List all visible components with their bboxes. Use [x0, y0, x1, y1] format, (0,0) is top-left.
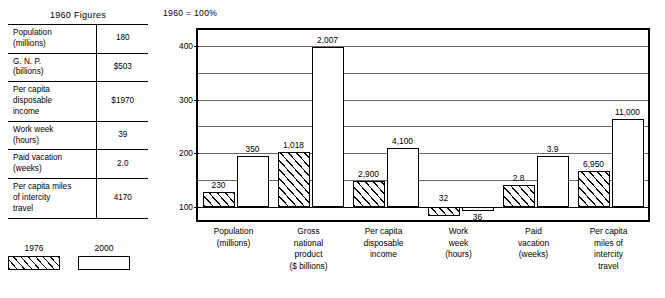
table-row-value: 180: [96, 25, 148, 54]
bar-1976: [353, 181, 385, 206]
x-axis-category-label: Population(millions): [198, 226, 269, 249]
legend-item-label: 2000: [78, 243, 130, 253]
chart-category-labels: Population(millions)Grossnationalproduct…: [196, 226, 650, 292]
bar-2000: [462, 207, 494, 211]
bar-1976: [203, 192, 235, 207]
bar-group: 3236: [423, 30, 498, 220]
table-row-label: Paid vacation(weeks): [8, 150, 96, 179]
table-row: Population(millions)180: [8, 25, 148, 54]
y-axis-tick: 400: [179, 41, 193, 51]
bar-2000: [537, 156, 569, 207]
bar-2000: [612, 119, 644, 207]
bar-2000: [387, 148, 419, 206]
legend-swatch-solid: [78, 256, 130, 270]
x-axis-category-label: Per capitadisposableincome: [348, 226, 419, 261]
bar-value-label: 1,018: [283, 140, 304, 150]
bar-group: 2,9004,100: [348, 30, 423, 220]
y-axis-tick: 100: [179, 202, 193, 212]
table-row-value: $1970: [96, 82, 148, 121]
legend-swatch-hatched: [8, 256, 60, 270]
table-row-label: Population(millions): [8, 25, 96, 54]
bar-1976: [278, 152, 310, 207]
report-figure: 1960 Figures Population(millions)180G. N…: [0, 0, 665, 298]
x-axis-category-label: Paidvacation(weeks): [498, 226, 569, 261]
chart-plot-area: 1002003004002303501,0182,0072,9004,10032…: [196, 28, 650, 222]
bar-1976: [503, 185, 535, 206]
bar-group: 6,95011,000: [573, 30, 648, 220]
table-row: Per capita milesof intercitytravel4170: [8, 179, 148, 218]
figures-table-title: 1960 Figures: [8, 10, 148, 24]
bar-1976: [578, 171, 610, 207]
figures-table-panel: 1960 Figures Population(millions)180G. N…: [8, 10, 148, 219]
table-row: G. N. P.(billions)$503: [8, 53, 148, 82]
y-axis-tick: 200: [179, 148, 193, 158]
table-row-value: 2.0: [96, 150, 148, 179]
table-row-value: $503: [96, 53, 148, 82]
legend-item: 2000: [78, 243, 130, 270]
bar-value-label: 11,000: [615, 107, 640, 117]
bar-value-label: 36: [473, 212, 482, 222]
table-row-label: Per capita milesof intercitytravel: [8, 179, 96, 218]
y-axis-tick: 300: [179, 95, 193, 105]
figures-table: Population(millions)180G. N. P.(billions…: [8, 24, 148, 219]
bar-value-label: 230: [212, 180, 226, 190]
bar-group: 2.83.9: [498, 30, 573, 220]
table-row: Paid vacation(weeks)2.0: [8, 150, 148, 179]
table-row-value: 39: [96, 121, 148, 150]
bar-1976: [428, 207, 460, 217]
bar-2000: [312, 47, 344, 207]
bar-value-label: 2,007: [317, 35, 338, 45]
bar-value-label: 2.8: [513, 173, 525, 183]
bar-group: 230350: [198, 30, 273, 220]
x-axis-category-label: Workweek(hours): [423, 226, 494, 261]
table-row: Per capitadisposableincome$1970: [8, 82, 148, 121]
legend-item: 1976: [8, 243, 60, 270]
table-row-label: Work week(hours): [8, 121, 96, 150]
bar-value-label: 32: [439, 193, 448, 203]
bar-value-label: 4,100: [392, 136, 413, 146]
bar-value-label: 6,950: [583, 159, 604, 169]
x-axis-category-label: Per capitamiles ofintercitytravel: [573, 226, 644, 272]
bar-value-label: 350: [246, 144, 260, 154]
legend-item-label: 1976: [8, 243, 60, 253]
table-row-value: 4170: [96, 179, 148, 218]
chart-plot-inner: 1002003004002303501,0182,0072,9004,10032…: [198, 30, 648, 220]
x-axis-category-label: Grossnationalproduct($ billions): [273, 226, 344, 272]
chart-index-caption: 1960 = 100%: [163, 8, 217, 18]
bar-group: 1,0182,007: [273, 30, 348, 220]
bar-2000: [237, 156, 269, 206]
table-row-label: G. N. P.(billions): [8, 53, 96, 82]
table-row: Work week(hours)39: [8, 121, 148, 150]
table-row-label: Per capitadisposableincome: [8, 82, 96, 121]
chart-legend: 19762000: [8, 243, 148, 270]
bar-value-label: 2,900: [358, 169, 379, 179]
bar-value-label: 3.9: [547, 144, 559, 154]
